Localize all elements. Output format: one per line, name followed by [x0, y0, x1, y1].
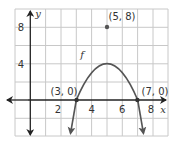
tick-y-8: 8: [18, 22, 24, 33]
label-point-3-0: (3, 0): [51, 86, 78, 97]
tick-x-4: 4: [88, 104, 94, 115]
tick-x-2: 2: [55, 104, 61, 115]
label-point-7-0: (7, 0): [142, 86, 169, 97]
label-point-5-8: (5, 8): [109, 11, 136, 22]
y-axis-label: y: [34, 8, 41, 19]
curve-left-tail: [71, 100, 77, 133]
point-3-0: [74, 98, 78, 102]
tick-x-6: 6: [119, 104, 125, 115]
point-7-0: [135, 98, 139, 102]
curve-right-tail: [138, 100, 144, 133]
x-axis-label: x: [160, 104, 166, 115]
tick-y-4: 4: [18, 59, 24, 70]
graph: 2 4 6 8 4 8 x y (3, 0) (5, 8) (7, 0) f: [0, 0, 180, 142]
point-5-8: [105, 25, 109, 29]
tick-x-8: 8: [148, 104, 154, 115]
curve-label-f: f: [79, 49, 86, 60]
